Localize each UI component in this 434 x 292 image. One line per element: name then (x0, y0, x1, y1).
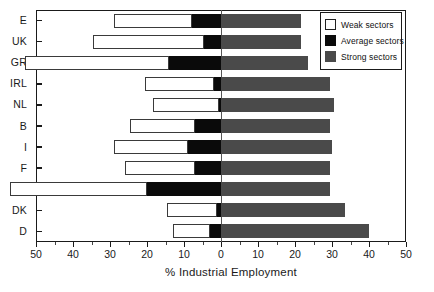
bar-group-dk (0, 203, 434, 217)
x-axis-tick-label: 30 (95, 248, 125, 260)
x-axis-tick-label: 50 (391, 248, 421, 260)
bar-segment-strong (221, 224, 369, 238)
x-axis-tick-label: 10 (169, 248, 199, 260)
bar-segment-weak (25, 56, 169, 70)
bar-segment-average (195, 161, 221, 175)
bar-segment-strong (221, 119, 330, 133)
bar-segment-average (188, 140, 221, 154)
bar-segment-strong (221, 98, 334, 112)
bar-segment-weak (114, 140, 188, 154)
legend-swatch-average-icon (325, 35, 336, 46)
x-axis-tick-label: 20 (280, 248, 310, 260)
x-axis-minor-tick (203, 242, 204, 245)
legend-label-average: Average sectors (341, 36, 404, 46)
bar-segment-average (214, 77, 221, 91)
legend-label-strong: Strong sectors (341, 52, 397, 62)
legend-item-weak: Weak sectors (325, 17, 398, 32)
legend-item-strong: Strong sectors (325, 49, 398, 64)
x-axis-tick (332, 242, 333, 247)
bar-segment-average (169, 56, 221, 70)
bar-segment-weak (10, 182, 147, 196)
legend-swatch-weak-icon (325, 19, 336, 30)
x-axis-tick (110, 242, 111, 247)
bar-segment-weak (145, 77, 213, 91)
bar-group-nl (0, 98, 434, 112)
bar-segment-weak (173, 224, 210, 238)
bar-segment-weak (93, 35, 204, 49)
bar-group-f (0, 161, 434, 175)
bar-segment-weak (167, 203, 217, 217)
bar-segment-strong (221, 14, 301, 28)
chart-root: EUKGRIRLNLBIFPDKD 504030201001020304050 … (0, 0, 434, 292)
x-axis-minor-tick (129, 242, 130, 245)
x-axis-minor-tick (240, 242, 241, 245)
bar-segment-strong (221, 35, 301, 49)
bar-segment-strong (221, 203, 345, 217)
x-axis-minor-tick (166, 242, 167, 245)
x-axis-minor-tick (351, 242, 352, 245)
x-axis-tick (221, 242, 222, 247)
bar-segment-weak (125, 161, 195, 175)
bar-segment-weak (114, 14, 192, 28)
chart-legend: Weak sectors Average sectors Strong sect… (320, 12, 402, 70)
x-axis-minor-tick (314, 242, 315, 245)
bar-segment-average (195, 119, 221, 133)
x-axis-tick-label: 20 (132, 248, 162, 260)
bar-segment-weak (153, 98, 220, 112)
x-axis-tick (258, 242, 259, 247)
x-axis-minor-tick (55, 242, 56, 245)
x-axis-tick (369, 242, 370, 247)
x-axis-tick (36, 242, 37, 247)
bar-segment-strong (221, 56, 308, 70)
bar-segment-strong (221, 140, 332, 154)
x-axis-tick-label: 50 (21, 248, 51, 260)
x-axis-tick (295, 242, 296, 247)
bar-segment-average (210, 224, 221, 238)
x-axis-title: % Industrial Employment (0, 266, 434, 278)
bar-segment-average (204, 35, 221, 49)
x-axis-tick (147, 242, 148, 247)
legend-label-weak: Weak sectors (341, 20, 394, 30)
bar-segment-weak (130, 119, 195, 133)
legend-item-average: Average sectors (325, 33, 398, 48)
bar-segment-average (147, 182, 221, 196)
x-axis-tick-label: 0 (206, 248, 236, 260)
bar-group-b (0, 119, 434, 133)
bar-group-d (0, 224, 434, 238)
x-axis-minor-tick (277, 242, 278, 245)
x-axis-tick (73, 242, 74, 247)
x-axis-tick-label: 10 (243, 248, 273, 260)
bar-group-i (0, 140, 434, 154)
legend-swatch-strong-icon (325, 51, 336, 62)
bar-segment-strong (221, 77, 330, 91)
bar-group-irl (0, 77, 434, 91)
x-axis-tick-label: 40 (58, 248, 88, 260)
bar-segment-strong (221, 161, 330, 175)
bar-group-p (0, 182, 434, 196)
x-axis-minor-tick (92, 242, 93, 245)
x-axis-tick (406, 242, 407, 247)
x-axis-tick-label: 30 (317, 248, 347, 260)
x-axis-minor-tick (388, 242, 389, 245)
bar-segment-strong (221, 182, 330, 196)
x-axis-tick-label: 40 (354, 248, 384, 260)
x-axis-tick (184, 242, 185, 247)
bar-segment-average (192, 14, 221, 28)
